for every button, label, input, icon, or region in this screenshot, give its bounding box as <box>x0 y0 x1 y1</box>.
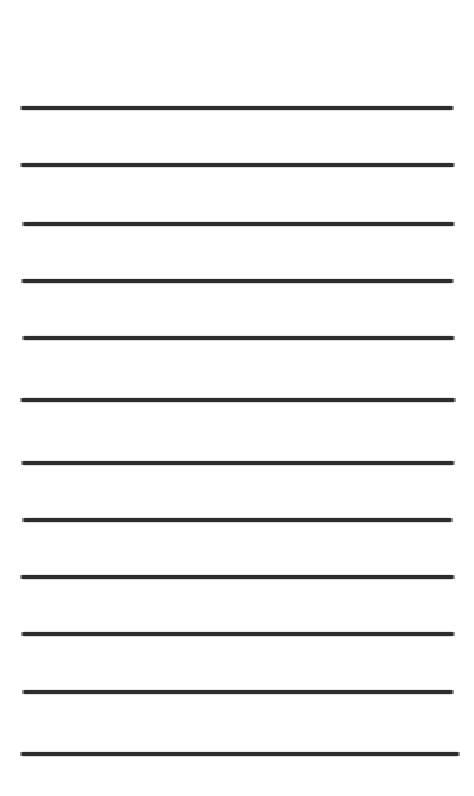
ruled-line <box>22 398 454 402</box>
ruled-line <box>24 690 452 694</box>
ruled-line <box>22 752 458 756</box>
ruled-line <box>23 632 453 636</box>
ruled-line <box>24 518 451 522</box>
ruled-line <box>23 279 452 283</box>
ruled-line <box>24 222 453 226</box>
ruled-line <box>22 163 453 167</box>
ruled-line <box>24 336 453 340</box>
ruled-line <box>23 461 453 465</box>
ruled-line <box>22 575 453 579</box>
ruled-line <box>22 106 452 110</box>
ruled-paper-sheet: Blank ruled paper sheet <box>0 0 474 796</box>
